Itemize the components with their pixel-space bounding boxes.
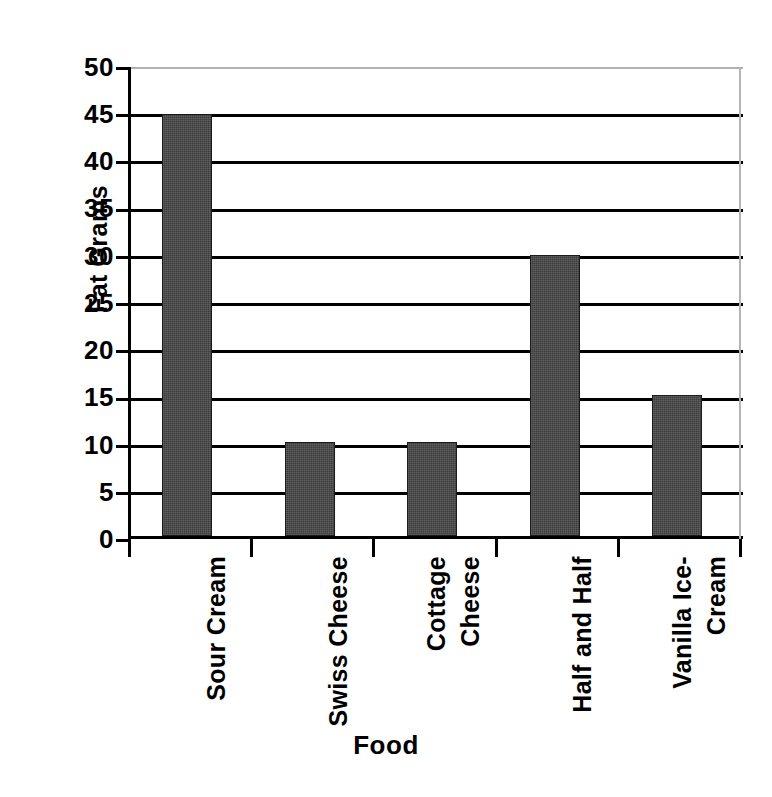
x-label-line: Cream	[704, 556, 729, 635]
y-tick-label-30: 30	[54, 243, 114, 269]
x-tick-mark-4	[617, 539, 620, 557]
y-tick-label-5: 5	[54, 479, 114, 505]
bar-cottage-cheese[interactable]	[407, 442, 457, 536]
x-axis-title: Food	[0, 730, 772, 761]
bar-half-and-half[interactable]	[530, 255, 580, 536]
x-label-line: Swiss Cheese	[326, 556, 351, 726]
bar-vanilla-ice-cream[interactable]	[652, 395, 702, 536]
x-tick-mark-3	[495, 539, 498, 557]
y-tick-label-40: 40	[54, 148, 114, 174]
y-tick-label-50: 50	[54, 54, 114, 80]
gridline-20	[131, 350, 743, 353]
gridline-25	[131, 303, 743, 306]
x-tick-mark-5	[739, 539, 742, 557]
axis-baseline-0	[131, 536, 743, 539]
y-tick-label-0: 0	[54, 526, 114, 552]
gridline-35	[131, 209, 743, 212]
plot-right-border	[739, 67, 741, 539]
bar-chart: Fat Grams 50 45 40 35 30 25 20 15 10 5 0	[0, 0, 772, 797]
y-tick-label-35: 35	[54, 195, 114, 221]
y-tick-label-20: 20	[54, 337, 114, 363]
gridline-30	[131, 256, 743, 259]
x-label-line: Half and Half	[570, 556, 595, 713]
x-tick-mark-0	[128, 539, 131, 557]
gridline-50	[131, 67, 743, 69]
y-tick-label-10: 10	[54, 432, 114, 458]
x-label-line: Cottage	[424, 556, 449, 651]
y-tick-label-15: 15	[54, 384, 114, 410]
gridline-40	[131, 161, 743, 164]
y-tick-label-25: 25	[54, 290, 114, 316]
bar-sour-cream[interactable]	[162, 114, 212, 536]
bar-swiss-cheese[interactable]	[285, 442, 335, 536]
x-tick-mark-1	[250, 539, 253, 557]
x-tick-mark-2	[372, 539, 375, 557]
plot-area	[128, 67, 740, 539]
y-axis-tick-labels: 50 45 40 35 30 25 20 15 10 5 0	[52, 0, 114, 797]
x-label-line: Sour Cream	[204, 556, 229, 701]
x-label-line: Cheese	[458, 556, 483, 647]
y-tick-label-45: 45	[54, 101, 114, 127]
x-label-line: Vanilla Ice-	[670, 556, 695, 689]
gridline-45	[131, 114, 743, 117]
